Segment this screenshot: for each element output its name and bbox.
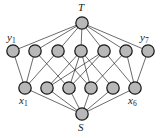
node-x2 [41, 82, 53, 94]
node-y5 [98, 45, 110, 57]
node-x4 [85, 82, 97, 94]
node-source-S [76, 108, 88, 120]
x-last-node-label: x6 [128, 95, 137, 106]
y-first-node-label: y1 [7, 32, 16, 43]
node-x3 [63, 82, 75, 94]
node-y3 [52, 45, 64, 57]
edge-sink-y1 [13, 23, 82, 51]
node-x5 [107, 82, 119, 94]
node-y7 [142, 45, 154, 57]
y-first-subscript: 1 [12, 36, 16, 45]
x-last-subscript: 6 [133, 99, 137, 108]
source-node-label: S [78, 122, 84, 133]
figure-container: T S y1 y7 x1 x6 [0, 0, 162, 138]
y-last-subscript: 7 [145, 36, 149, 45]
bipartite-graph-svg [0, 0, 162, 138]
node-x6 [129, 82, 141, 94]
x-first-subscript: 1 [24, 99, 28, 108]
node-x1 [19, 82, 31, 94]
node-y2 [29, 45, 41, 57]
node-sink-T [76, 17, 88, 29]
node-y1 [7, 45, 19, 57]
node-y4 [75, 45, 87, 57]
node-y6 [120, 45, 132, 57]
y-last-node-label: y7 [140, 32, 149, 43]
edge-sink-y7 [82, 23, 148, 51]
sink-node-label: T [78, 2, 84, 13]
x-first-node-label: x1 [19, 95, 28, 106]
